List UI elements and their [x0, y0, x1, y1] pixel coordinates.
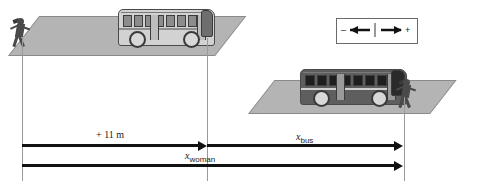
physics-diagram: – +: [0, 0, 479, 181]
bus-roofline: [303, 72, 402, 73]
bus-window: [188, 15, 197, 27]
measurement-arrow-woman-line: [22, 164, 395, 167]
measurement-arrow-woman-head: [394, 161, 403, 171]
measurement-subscript-bus: bus: [300, 136, 313, 145]
measurement-label-bus: xbus: [296, 131, 313, 145]
bus-window: [177, 15, 186, 27]
measurement-arrow-gap-line: [22, 144, 200, 147]
svg-text:+: +: [405, 25, 410, 35]
running-woman-figure-end: [396, 79, 416, 107]
running-woman-figure-start: [10, 18, 32, 48]
bus-wheel-rear: [313, 90, 330, 107]
measurement-label-gap: + 11 m: [96, 129, 124, 140]
bus-window: [365, 75, 375, 86]
bus-window: [377, 75, 387, 86]
bus-window: [305, 75, 315, 86]
bus-window: [123, 15, 132, 27]
reference-line-woman-start: [22, 40, 23, 181]
bus-figure-end: [300, 69, 405, 103]
bus-front-section: [201, 10, 213, 37]
bus-window: [134, 15, 143, 27]
woman-leg-front: [404, 97, 411, 108]
svg-text:–: –: [341, 25, 346, 35]
bus-window: [317, 75, 327, 86]
bus-window: [166, 15, 175, 27]
bus-figure-start: [118, 9, 213, 44]
measurement-arrow-bus-head: [394, 141, 403, 151]
bus-door-front: [336, 74, 345, 99]
axis-arrows-icon: – +: [337, 19, 415, 41]
bus-door-front: [150, 15, 159, 41]
bus-window: [353, 75, 363, 86]
axis-direction-indicator: – +: [336, 18, 418, 44]
measurement-subscript-woman: woman: [189, 155, 215, 164]
bus-window-row: [123, 15, 197, 27]
bus-wheel-front: [183, 31, 200, 48]
measurement-label-woman: xwoman: [185, 150, 215, 164]
bus-roofline: [121, 12, 210, 13]
bus-window-row: [305, 75, 387, 86]
reference-line-final-position: [404, 97, 405, 181]
